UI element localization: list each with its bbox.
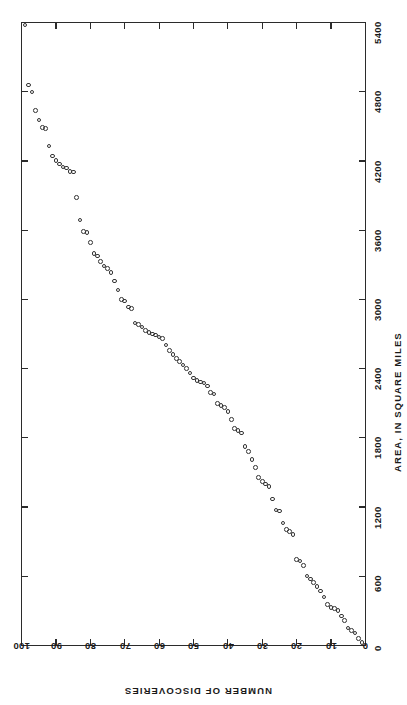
scatter-point: [284, 527, 289, 532]
scatter-point: [92, 251, 97, 256]
area-tick-label-1200: 1200: [372, 506, 383, 529]
scatter-point: [171, 352, 176, 357]
scatter-point: [208, 390, 213, 395]
discoveries-tick-label-30: 30: [257, 641, 268, 652]
scatter-point: [270, 497, 275, 502]
scatter-point: [256, 475, 261, 480]
scatter-point: [349, 628, 354, 633]
area-tick-inner-1200: [21, 506, 28, 507]
area-tick-3000: [359, 299, 366, 300]
scatter-point: [33, 108, 38, 113]
scatter-point: [250, 457, 255, 462]
scatter-point: [311, 580, 316, 585]
discoveries-tick-inner-70: [124, 22, 125, 29]
area-tick-inner-4800: [21, 91, 28, 92]
scatter-point: [68, 169, 73, 174]
scatter-point: [360, 640, 365, 645]
discoveries-tick-inner-20: [296, 22, 297, 29]
scatter-point: [88, 240, 93, 245]
discoveries-tick-inner-80: [90, 22, 91, 29]
area-tick-3600: [359, 230, 366, 231]
area-tick-4800: [359, 91, 366, 92]
area-tick-1800: [359, 437, 366, 438]
scatter-point: [205, 384, 210, 389]
scatter-point: [167, 348, 172, 353]
chart-canvas: 060012001800240030003600420048005400 010…: [0, 0, 407, 705]
scatter-point: [74, 195, 79, 200]
scatter-point: [174, 356, 179, 361]
scatter-point: [325, 602, 330, 607]
area-tick-600: [359, 576, 366, 577]
scatter-point: [112, 279, 117, 284]
discoveries-tick-inner-40: [227, 22, 228, 29]
axis-spine-left: [21, 22, 22, 646]
discoveries-tick-label-50: 50: [188, 641, 199, 652]
discoveries-tick-label-90: 90: [50, 641, 61, 652]
scatter-point: [81, 229, 86, 234]
discoveries-tick-inner-60: [159, 22, 160, 29]
scatter-point: [57, 162, 62, 167]
area-tick-label-1800: 1800: [372, 437, 383, 460]
discoveries-tick-label-40: 40: [222, 641, 233, 652]
scatter-point: [246, 449, 251, 454]
scatter-point: [40, 125, 45, 130]
scatter-point: [260, 479, 265, 484]
discoveries-tick-label-20: 20: [291, 641, 302, 652]
area-tick-inner-600: [21, 576, 28, 577]
scatter-point: [339, 614, 344, 619]
discoveries-tick-inner-0: [365, 22, 366, 29]
area-tick-inner-3000: [21, 299, 28, 300]
area-tick-inner-2400: [21, 368, 28, 369]
discoveries-tick-inner-10: [330, 22, 331, 29]
area-tick-label-0: 0: [372, 645, 383, 651]
discoveries-tick-inner-30: [262, 22, 263, 29]
area-axis-title: AREA, IN SQUARE MILES: [392, 332, 403, 472]
discoveries-tick-label-70: 70: [119, 641, 130, 652]
scatter-point: [184, 366, 189, 371]
discoveries-axis-title: NUMBER OF DISCOVERIES: [124, 686, 272, 697]
area-tick-label-3000: 3000: [372, 298, 383, 321]
scatter-point: [26, 83, 31, 88]
scatter-point: [294, 557, 299, 562]
area-tick-label-3600: 3600: [372, 229, 383, 252]
scatter-point: [109, 270, 114, 275]
area-tick-4200: [359, 160, 366, 161]
discoveries-tick-label-60: 60: [154, 641, 165, 652]
scatter-point: [143, 328, 148, 333]
scatter-point: [215, 401, 220, 406]
area-tick-inner-3600: [21, 230, 28, 231]
scatter-point: [229, 417, 234, 422]
scatter-point: [105, 266, 110, 271]
axis-spine-right: [365, 22, 366, 646]
area-tick-inner-4200: [21, 160, 28, 161]
area-tick-2400: [359, 368, 366, 369]
scatter-point: [243, 444, 248, 449]
discoveries-tick-label-10: 10: [325, 641, 336, 652]
discoveries-tick-inner-50: [193, 22, 194, 29]
scatter-point: [50, 154, 55, 159]
area-tick-1200: [359, 506, 366, 507]
discoveries-tick-label-100: 100: [13, 641, 30, 652]
scatter-point: [232, 426, 237, 431]
scatter-point: [226, 409, 231, 414]
area-tick-label-600: 600: [372, 575, 383, 592]
scatter-point: [356, 636, 361, 641]
area-tick-label-5400: 5400: [372, 22, 383, 45]
scatter-point: [191, 376, 196, 381]
area-tick-inner-1800: [21, 437, 28, 438]
scatter-point: [301, 563, 306, 568]
plot-frame: [21, 22, 366, 646]
discoveries-tick-label-80: 80: [85, 641, 96, 652]
scatter-point: [98, 259, 103, 264]
scatter-point: [253, 465, 258, 470]
scatter-point: [126, 305, 131, 310]
area-tick-label-2400: 2400: [372, 367, 383, 390]
area-tick-label-4200: 4200: [372, 160, 383, 183]
scatter-point: [54, 158, 59, 163]
discoveries-tick-inner-90: [55, 22, 56, 29]
area-tick-label-4800: 4800: [372, 91, 383, 114]
scatter-point: [119, 297, 124, 302]
scatter-point: [308, 577, 313, 582]
scatter-point: [342, 618, 347, 623]
